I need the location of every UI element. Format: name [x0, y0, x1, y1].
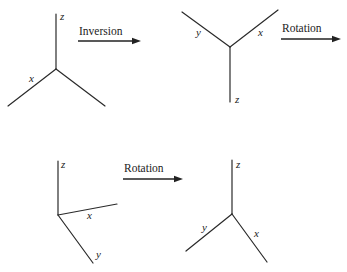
operation-label: Rotation [124, 162, 164, 174]
y-axis [186, 214, 232, 251]
z-axis-label: z [235, 158, 241, 170]
panel-after-inversion: y x z [182, 10, 278, 105]
x-axis [230, 10, 278, 47]
operation-label: Inversion [79, 25, 123, 37]
y-axis [182, 12, 230, 47]
y-axis-label: y [195, 26, 201, 38]
panel-after-rotation-1: z x y [58, 158, 117, 263]
y-axis-label: y [201, 221, 207, 233]
x-axis-label: x [28, 72, 34, 84]
y-axis [58, 215, 93, 263]
y-axis-label: y [95, 248, 101, 260]
panel-after-rotation-2: z y x [186, 158, 267, 262]
operation-label: Rotation [282, 22, 322, 34]
operation-inversion: Inversion [78, 25, 141, 44]
x-axis-label: x [86, 209, 92, 221]
operation-rotation-1: Rotation [281, 22, 341, 42]
z-axis-label: z [59, 10, 65, 22]
arrow-head-icon [174, 176, 183, 182]
y-axis-unlabeled [56, 69, 105, 106]
x-axis-label: x [253, 227, 259, 239]
arrow-head-icon [132, 38, 141, 44]
operation-rotation-2: Rotation [123, 162, 183, 182]
z-axis-label: z [60, 158, 66, 170]
symmetry-operations-diagram: z x Inversion y x z Rotation z x y Rotat… [0, 0, 347, 272]
x-axis [232, 214, 267, 262]
arrow-head-icon [332, 36, 341, 42]
x-axis-label: x [257, 26, 263, 38]
z-axis-label: z [234, 93, 240, 105]
